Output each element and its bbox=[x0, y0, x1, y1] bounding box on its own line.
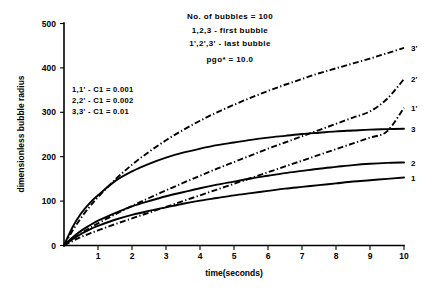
x-tick-label-1: 1 bbox=[96, 251, 101, 261]
curve-end-label-3-prime: 3' bbox=[411, 44, 417, 53]
y-axis-ticks: 0 100 200 300 400 500 bbox=[42, 19, 64, 251]
x-tick-label-7: 7 bbox=[300, 251, 305, 261]
legend-entry-3: 3,3' - C1 = 0.01 bbox=[72, 107, 130, 116]
x-axis-ticks: 1 2 3 4 5 6 7 8 9 10 bbox=[96, 246, 409, 262]
annotation-line-2: 1,2,3 - first bubble bbox=[192, 26, 269, 35]
x-tick-label-3: 3 bbox=[164, 251, 169, 261]
annotation-line-4: pgo* = 10.0 bbox=[207, 55, 254, 64]
annotation-block: No. of bubbles = 100 1,2,3 - first bubbl… bbox=[187, 12, 273, 64]
chart-figure: 0 100 200 300 400 500 1 2 3 4 5 6 7 bbox=[0, 0, 433, 290]
y-axis-title: dimensionless bubble radius bbox=[16, 75, 26, 192]
curve-1-prime bbox=[64, 108, 404, 246]
annotation-line-3: 1',2',3' - last bubble bbox=[189, 39, 271, 48]
legend-entry-1: 1,1' - C1 = 0.001 bbox=[72, 85, 134, 94]
curve-1 bbox=[64, 178, 404, 246]
curve-3 bbox=[64, 129, 404, 246]
x-tick-label-2: 2 bbox=[130, 251, 135, 261]
x-axis-title: time(seconds) bbox=[205, 268, 263, 278]
y-tick-label-100: 100 bbox=[42, 196, 56, 206]
x-tick-label-5: 5 bbox=[232, 251, 237, 261]
x-tick-label-8: 8 bbox=[334, 251, 339, 261]
x-tick-label-6: 6 bbox=[266, 251, 271, 261]
y-tick-label-200: 200 bbox=[42, 152, 56, 162]
y-tick-label-300: 300 bbox=[42, 107, 56, 117]
legend-entry-2: 2,2' - C1 = 0.002 bbox=[72, 96, 134, 105]
curve-2 bbox=[64, 162, 404, 245]
curve-3-prime bbox=[64, 48, 404, 246]
curve-end-label-2: 2 bbox=[411, 159, 416, 168]
y-tick-label-400: 400 bbox=[42, 63, 56, 73]
curve-end-label-2-prime: 2' bbox=[411, 75, 417, 84]
legend-block: 1,1' - C1 = 0.001 2,2' - C1 = 0.002 3,3'… bbox=[72, 85, 134, 116]
curve-end-label-1: 1 bbox=[411, 174, 416, 183]
y-tick-label-0: 0 bbox=[51, 241, 56, 251]
bubble-radius-line-chart: 0 100 200 300 400 500 1 2 3 4 5 6 7 bbox=[0, 0, 433, 290]
data-curves bbox=[64, 48, 404, 246]
curve-end-label-1-prime: 1' bbox=[411, 104, 417, 113]
x-tick-label-10: 10 bbox=[399, 251, 409, 261]
annotation-line-1: No. of bubbles = 100 bbox=[187, 12, 273, 21]
curve-end-label-3: 3 bbox=[411, 125, 416, 134]
curve-end-labels: 1231'2'3' bbox=[411, 44, 417, 183]
x-tick-label-9: 9 bbox=[368, 251, 373, 261]
x-tick-label-4: 4 bbox=[198, 251, 203, 261]
y-tick-label-500: 500 bbox=[42, 19, 56, 29]
